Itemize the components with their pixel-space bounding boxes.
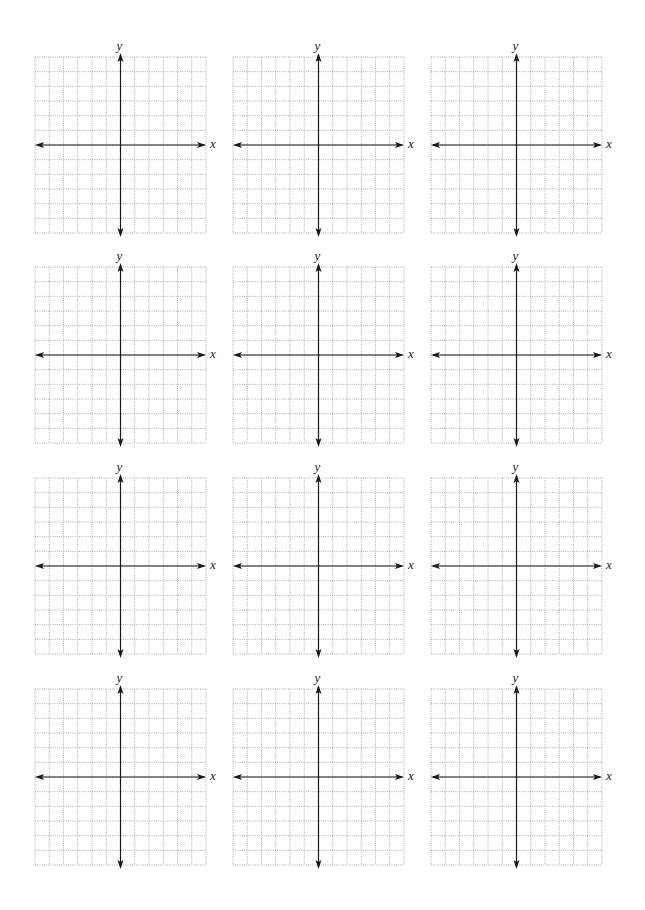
grid-svg (233, 57, 404, 233)
coordinate-grid-8: y x (233, 478, 423, 678)
y-axis-label: y (513, 249, 519, 262)
coordinate-grid-5: y x (233, 267, 423, 467)
y-axis-label: y (513, 39, 519, 52)
y-axis-label: y (513, 460, 519, 473)
x-axis-label: x (210, 347, 216, 360)
grid-svg (35, 689, 206, 865)
y-axis-label: y (315, 460, 321, 473)
coordinate-grid-2: y x (233, 57, 423, 257)
grid-svg (233, 478, 404, 654)
x-axis-label: x (210, 137, 216, 150)
x-axis-label: x (606, 769, 612, 782)
y-axis-label: y (117, 671, 123, 684)
grid-svg (35, 57, 206, 233)
y-axis-label: y (315, 671, 321, 684)
y-axis-label: y (117, 39, 123, 52)
grid-svg (35, 478, 206, 654)
y-axis-label: y (315, 249, 321, 262)
grid-svg (35, 267, 206, 443)
coordinate-grid-1: y x (35, 57, 225, 257)
grid-svg (431, 478, 602, 654)
coordinate-grid-9: y x (431, 478, 621, 678)
x-axis-label: x (408, 137, 414, 150)
y-axis-label: y (117, 249, 123, 262)
coordinate-grid-7: y x (35, 478, 225, 678)
x-axis-label: x (408, 558, 414, 571)
y-axis-label: y (315, 39, 321, 52)
grid-svg (431, 689, 602, 865)
grid-svg (431, 267, 602, 443)
grid-svg (233, 689, 404, 865)
x-axis-label: x (408, 347, 414, 360)
x-axis-label: x (606, 137, 612, 150)
coordinate-grid-12: y x (431, 689, 621, 889)
coordinate-grid-3: y x (431, 57, 621, 257)
coordinate-grid-10: y x (35, 689, 225, 889)
x-axis-label: x (408, 769, 414, 782)
x-axis-label: x (606, 347, 612, 360)
coordinate-grid-4: y x (35, 267, 225, 467)
x-axis-label: x (606, 558, 612, 571)
y-axis-label: y (513, 671, 519, 684)
grid-svg (233, 267, 404, 443)
y-axis-label: y (117, 460, 123, 473)
coordinate-grid-11: y x (233, 689, 423, 889)
x-axis-label: x (210, 558, 216, 571)
x-axis-label: x (210, 769, 216, 782)
grid-svg (431, 57, 602, 233)
coordinate-grid-6: y x (431, 267, 621, 467)
